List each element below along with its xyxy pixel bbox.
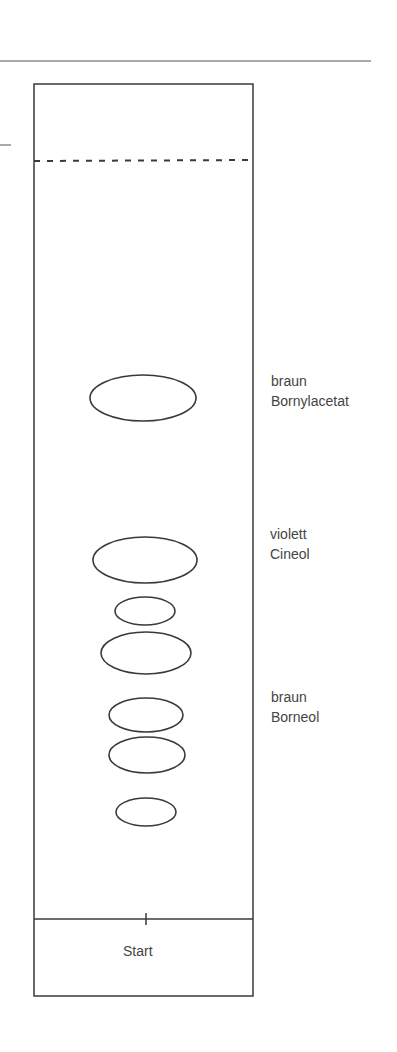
spot-1 <box>90 375 196 421</box>
annotation-compound: Cineol <box>270 544 310 564</box>
annotation-bornylacetat: braun Bornylacetat <box>271 371 349 411</box>
chromatogram-diagram <box>0 0 397 1052</box>
annotation-color: violett <box>270 524 310 544</box>
annotation-compound: Borneol <box>271 707 319 727</box>
annotation-cineol: violett Cineol <box>270 524 310 564</box>
plate-outline <box>34 84 253 996</box>
annotation-color: braun <box>271 687 319 707</box>
solvent-front-line <box>34 160 253 161</box>
spot-2 <box>93 537 197 583</box>
spot-5 <box>109 698 183 732</box>
spot-7 <box>116 798 176 826</box>
start-label: Start <box>123 943 153 959</box>
spots-group <box>90 375 197 826</box>
annotation-compound: Bornylacetat <box>271 391 349 411</box>
annotation-color: braun <box>271 371 349 391</box>
spot-6 <box>109 737 185 773</box>
spot-3 <box>115 597 175 625</box>
annotation-borneol: braun Borneol <box>271 687 319 727</box>
spot-4 <box>101 632 191 674</box>
